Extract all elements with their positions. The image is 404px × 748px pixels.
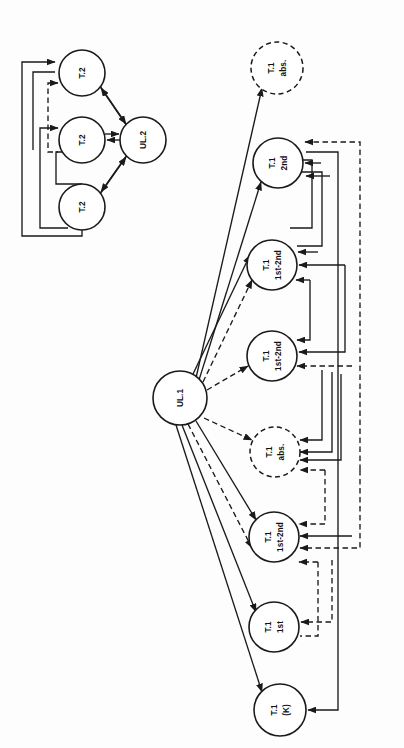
- edge-ul1-to-abs-top: [196, 88, 262, 378]
- edge-ul1-to-1st2nd-c: [196, 421, 256, 520]
- node-t2-c-label: T.2: [78, 201, 87, 213]
- ul1-cluster-nodes: T.1 abs. T.1 2nd T.1 1st-2nd T.1 1st-2nd…: [153, 42, 306, 736]
- rail-b-to-absmid-3: [300, 374, 341, 460]
- diagram-root: T.2 T.2 T.2 UL.2: [0, 0, 404, 748]
- edge-ul1-to-1st2nd-b-dashed: [207, 366, 248, 390]
- node-t1-k-label-line2: (K): [282, 704, 291, 716]
- node-t2-a-label: T.2: [78, 67, 87, 79]
- node-t1-2nd-label-line2: 2nd: [280, 156, 289, 171]
- node-t1-2nd-label-line1: T.1: [268, 157, 277, 169]
- diagram-canvas: T.2 T.2 T.2 UL.2: [0, 0, 404, 748]
- edge-rail-top: [33, 72, 55, 150]
- node-t1-2nd-circle[interactable]: [253, 138, 303, 188]
- node-ul2-label: UL.2: [139, 131, 148, 149]
- node-t1-1st2nd-a-label-line1: T.1: [262, 259, 271, 271]
- node-t1-abs-top-circle[interactable]: [251, 42, 303, 94]
- node-t1-1st2nd-c-label-line1: T.1: [264, 531, 273, 543]
- node-t1-k-circle[interactable]: [254, 684, 306, 736]
- edge-t2c-to-ul2: [100, 157, 126, 194]
- node-t1-1st2nd-b-label-line2: 1st-2nd: [274, 341, 283, 371]
- node-t1-1st2nd-b-circle[interactable]: [247, 331, 297, 381]
- node-t1-1st-label-line1: T.1: [264, 621, 273, 633]
- node-t1-1st2nd-c-label-line2: 1st-2nd: [276, 522, 285, 552]
- rail-absmid-to-c-dashed: [299, 470, 325, 524]
- edge-ul1-to-absmid-dashed: [204, 418, 252, 440]
- node-t1-abs-top-label-line2: abs.: [279, 60, 288, 77]
- rail-b-to-absmid-1: [300, 370, 322, 440]
- edge-ul1-to-1st2nd-a: [193, 255, 250, 374]
- node-t1-1st2nd-a-label-line2: 1st-2nd: [274, 250, 283, 280]
- node-t1-1st-label-line2: 1st: [276, 621, 285, 633]
- edge-ul1-to-1st: [182, 425, 256, 612]
- rail-2nd-loop-a: [297, 172, 322, 246]
- node-ul1-label: UL.1: [176, 389, 185, 407]
- arrow-into-1st-dashed: [301, 560, 332, 622]
- node-t2-b-label: T.2: [78, 134, 87, 146]
- node-t1-k-label-line1: T.1: [270, 704, 279, 716]
- node-t1-abs-mid-label-line1: T.1: [265, 446, 274, 458]
- edge-t2a-to-ul2: [100, 86, 126, 124]
- rail-c-to-1st-dashed: [300, 562, 318, 636]
- node-t1-abs-top-label-line1: T.1: [267, 62, 276, 74]
- ul1-return-rails: [290, 142, 360, 710]
- edge-ul1-to-k: [176, 425, 262, 692]
- edge-1st2nd-c-to-ul1-dashed: [188, 424, 252, 548]
- edge-2nd-to-ul1-dashed: [203, 280, 252, 382]
- node-t1-1st2nd-a-circle[interactable]: [247, 240, 297, 290]
- rail-a-to-b: [297, 280, 310, 340]
- node-t1-abs-mid-circle[interactable]: [250, 427, 300, 477]
- node-t1-abs-mid-label-line2: abs.: [277, 444, 286, 461]
- node-t1-1st-circle[interactable]: [249, 602, 299, 652]
- node-t1-1st2nd-b-label-line1: T.1: [262, 350, 271, 362]
- node-t1-1st2nd-c-circle[interactable]: [249, 512, 299, 562]
